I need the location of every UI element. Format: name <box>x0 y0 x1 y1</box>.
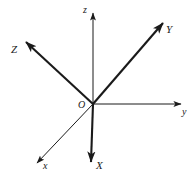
X-axis-label: X <box>96 160 103 171</box>
Z-axis-label: Z <box>11 44 17 55</box>
z-axis-label: z <box>83 5 87 15</box>
Z-axis-line <box>26 42 93 104</box>
x-axis-label: x <box>43 161 47 171</box>
Y-axis-label: Y <box>166 24 172 35</box>
origin-label: O <box>78 100 85 110</box>
y-axis-label: y <box>182 107 186 117</box>
coordinate-axes-figure: z y x Z Y X O <box>0 0 196 180</box>
Y-axis-line <box>93 23 163 104</box>
X-axis-line <box>91 104 93 162</box>
x-axis-line <box>37 104 93 163</box>
